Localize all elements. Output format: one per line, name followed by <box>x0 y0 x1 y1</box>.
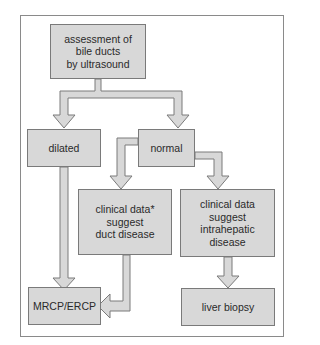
node-dilated: dilated <box>27 129 101 167</box>
node-clinical-intrahepatic: clinical data suggest intrahepatic disea… <box>180 189 275 257</box>
arrow-start-to-dilated-and-normal <box>53 79 189 128</box>
arrow-intrahepatic-to-biopsy <box>217 257 239 288</box>
arrow-duct-disease-to-mrcp <box>98 255 130 318</box>
node-mrcp-ercp: MRCP/ERCP <box>28 287 101 325</box>
arrow-normal-to-intrahepatic <box>195 152 229 189</box>
node-clinical-duct-disease: clinical data* suggest duct disease <box>78 189 172 255</box>
node-ultrasound-assessment: assessment of bile ducts by ultrasound <box>50 24 146 79</box>
arrow-dilated-to-mrcp <box>53 167 75 290</box>
arrow-normal-to-duct-disease <box>110 138 138 189</box>
node-liver-biopsy: liver biopsy <box>181 288 275 326</box>
node-normal: normal <box>138 129 195 167</box>
